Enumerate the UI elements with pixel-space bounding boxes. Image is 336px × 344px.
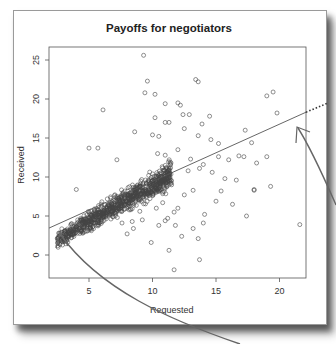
y-tick-label: 10 xyxy=(31,172,41,182)
x-tick-label: 15 xyxy=(211,286,221,296)
y-tick-label: 5 xyxy=(31,213,41,218)
x-tick-label: 20 xyxy=(274,286,284,296)
regression-line xyxy=(49,103,328,228)
x-tick-label: 10 xyxy=(147,286,157,296)
annotation-arrows xyxy=(56,127,336,344)
plot-frame xyxy=(49,47,306,278)
x-tick-label: 5 xyxy=(86,286,91,296)
data-points xyxy=(55,53,301,271)
y-tick-label: 15 xyxy=(31,133,41,143)
y-tick-label: 0 xyxy=(31,252,41,257)
arrow-right-annotation xyxy=(298,128,336,205)
y-tick-label: 20 xyxy=(31,94,41,104)
scatter-plot: 51015200510152025 xyxy=(0,0,336,344)
y-tick-label: 25 xyxy=(31,55,41,65)
dotted-extension xyxy=(306,103,328,112)
